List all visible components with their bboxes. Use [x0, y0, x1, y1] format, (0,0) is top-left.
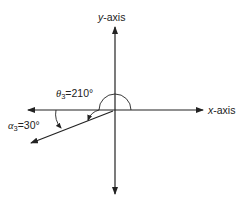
y-axis-label: y-axis [97, 11, 125, 23]
angle-diagram: y-axis x-axis θ3=210° α3=30° [0, 0, 246, 203]
alpha-arc [56, 110, 61, 128]
vector-ray [31, 111, 113, 143]
x-axis-label: x-axis [207, 104, 235, 116]
theta-arc [88, 94, 131, 120]
theta-label: θ3=210° [56, 87, 93, 101]
alpha-label: α3=30° [8, 119, 40, 133]
